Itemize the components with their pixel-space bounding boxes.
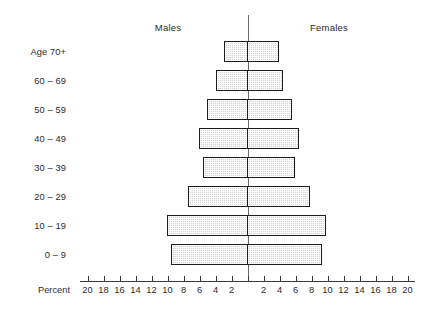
population-pyramid-chart: Males Females Age 70+60 – 6950 – 5940 – … [0,0,436,313]
male-bar [216,70,249,91]
x-axis-tick [216,276,217,282]
female-bar [247,41,279,62]
x-axis-tick [184,276,185,282]
x-axis-tick [360,276,361,282]
pyramid-row: 30 – 39 [0,154,436,183]
male-bar [207,99,248,120]
male-bar [171,244,248,265]
pyramid-row: 20 – 29 [0,183,436,212]
pyramid-row: 0 – 9 [0,241,436,270]
x-axis-tick [296,276,297,282]
female-bar [247,157,295,178]
x-axis-tick [392,276,393,282]
pyramid-row: Age 70+ [0,38,436,67]
pyramid-row: 10 – 19 [0,212,436,241]
plot-area: Age 70+60 – 6950 – 5940 – 4930 – 3920 – … [0,38,436,270]
x-axis: Percent 20181614121086422468101214161820 [0,276,436,313]
age-group-label: Age 70+ [0,47,66,57]
female-bar [247,215,326,236]
female-bar [247,128,299,149]
age-group-label: 60 – 69 [0,76,66,86]
male-bar [188,186,248,207]
x-axis-tick [200,276,201,282]
x-axis-tick [280,276,281,282]
x-axis-tick [312,276,313,282]
x-axis-tick [104,276,105,282]
male-bar [203,157,248,178]
x-axis-tick-label: 20 [397,285,419,295]
male-bar [224,41,248,62]
x-axis-tick-label: 2 [221,285,243,295]
x-axis-tick [136,276,137,282]
male-bar [167,215,248,236]
x-axis-tick [120,276,121,282]
x-axis-tick [248,276,249,282]
x-axis-tick [232,276,233,282]
age-group-label: 50 – 59 [0,105,66,115]
x-axis-tick [408,276,409,282]
x-axis-tick [264,276,265,282]
x-axis-tick [328,276,329,282]
pyramid-row: 50 – 59 [0,96,436,125]
x-axis-tick [152,276,153,282]
age-group-label: 20 – 29 [0,192,66,202]
x-axis-tick [344,276,345,282]
males-legend-label: Males [144,22,192,33]
male-bar [199,128,248,149]
x-axis-tick [88,276,89,282]
females-legend-label: Females [303,22,355,33]
female-bar [247,99,292,120]
female-bar [247,70,283,91]
female-bar [247,186,310,207]
age-group-label: 40 – 49 [0,134,66,144]
age-group-label: 10 – 19 [0,221,66,231]
x-axis-tick [376,276,377,282]
age-group-label: 0 – 9 [0,250,66,260]
female-bar [247,244,322,265]
x-axis-title: Percent [8,285,70,295]
pyramid-row: 40 – 49 [0,125,436,154]
age-group-label: 30 – 39 [0,163,66,173]
x-axis-tick [168,276,169,282]
pyramid-row: 60 – 69 [0,67,436,96]
